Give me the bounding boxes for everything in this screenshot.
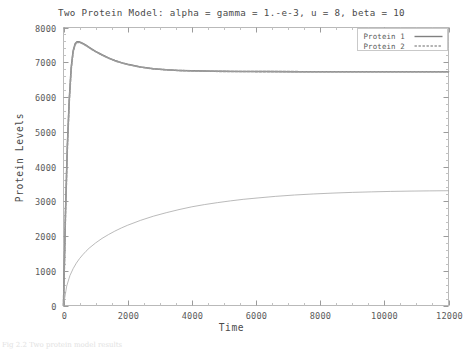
x-tick-label: 8000 — [310, 311, 332, 321]
x-axis-label: Time — [0, 322, 463, 333]
legend-label-2: Protein 2 — [364, 42, 405, 51]
x-tick-label: 4000 — [182, 311, 204, 321]
y-axis-label: Protein Levels — [14, 98, 25, 218]
plot-svg: 0100020003000400050006000700080000200040… — [0, 0, 463, 352]
plot-frame — [64, 28, 449, 306]
y-tick-label: 5000 — [35, 128, 57, 138]
x-tick-label: 0 — [62, 311, 67, 321]
y-tick-label: 4000 — [35, 163, 57, 173]
y-tick-label: 8000 — [35, 24, 57, 34]
y-tick-label: 0 — [51, 302, 56, 312]
figure-caption: Fig 2.2 Two protein model results — [2, 341, 122, 349]
legend-label-1: Protein 1 — [364, 32, 405, 41]
y-tick-label: 1000 — [35, 267, 57, 277]
x-tick-label: 6000 — [246, 311, 268, 321]
y-tick-label: 2000 — [35, 232, 57, 242]
y-tick-label: 6000 — [35, 93, 57, 103]
y-tick-label: 7000 — [35, 58, 57, 68]
x-tick-label: 12000 — [436, 311, 463, 321]
y-tick-label: 3000 — [35, 197, 57, 207]
x-tick-label: 2000 — [118, 311, 140, 321]
figure-container: Two Protein Model: alpha = gamma = 1.-e-… — [0, 0, 463, 352]
x-tick-label: 10000 — [371, 311, 398, 321]
